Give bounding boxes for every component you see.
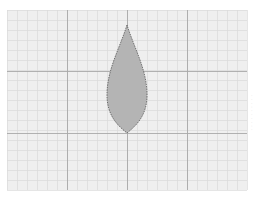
watermark-text: · · · · · · · · · · bbox=[249, 95, 255, 131]
grid-diagram bbox=[0, 0, 257, 199]
